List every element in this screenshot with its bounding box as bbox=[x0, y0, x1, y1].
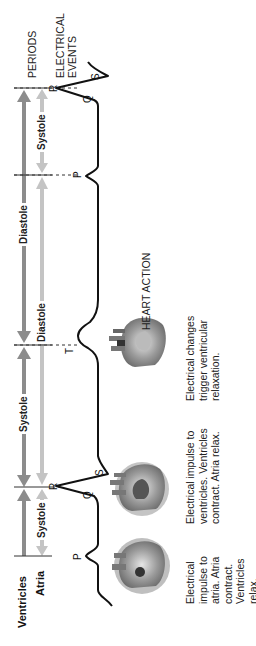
ecg-clean-trace bbox=[0, 0, 256, 646]
